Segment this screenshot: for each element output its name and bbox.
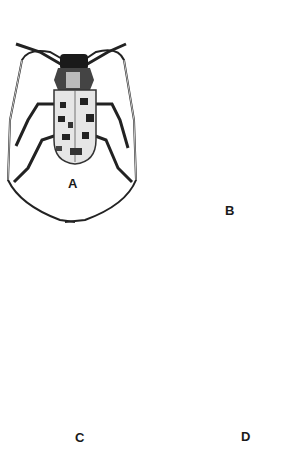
panel-label-b: B [225, 204, 234, 217]
panel-label-a: A [68, 177, 77, 190]
panel-label-c: C [75, 431, 84, 444]
panel-label-d: D [241, 430, 250, 443]
beetle-plate [0, 0, 308, 450]
beetle-a [8, 44, 136, 222]
